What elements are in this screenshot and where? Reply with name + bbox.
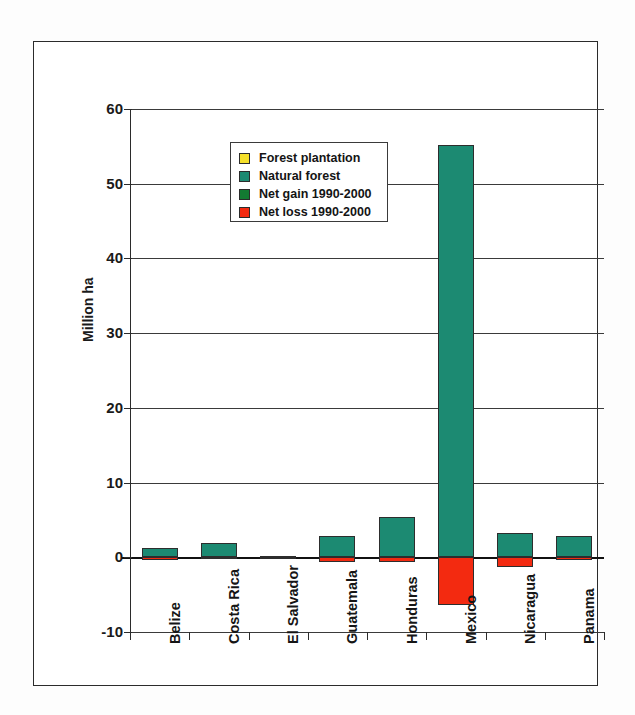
y-tick bbox=[124, 632, 132, 633]
bar-segment-natural-forest bbox=[556, 536, 592, 557]
y-tick bbox=[124, 408, 132, 409]
x-tick-label: Belize bbox=[167, 602, 183, 644]
y-axis bbox=[130, 109, 131, 632]
bar-segment-net-loss bbox=[319, 557, 355, 561]
bar-segment-natural-forest bbox=[379, 517, 415, 557]
bar-segment-net-loss bbox=[201, 557, 237, 559]
x-tick bbox=[249, 632, 250, 640]
y-tick-label: 30 bbox=[83, 324, 123, 341]
x-tick bbox=[189, 632, 190, 640]
figure-canvas: Million ha -100102030405060 BelizeCosta … bbox=[0, 0, 635, 715]
bar-group bbox=[556, 109, 592, 632]
y-tick bbox=[124, 109, 132, 110]
bar-segment-net-loss bbox=[497, 557, 533, 567]
x-tick-label: Guatemala bbox=[344, 570, 360, 644]
bar-segment-net-loss bbox=[260, 557, 296, 559]
x-tick bbox=[604, 632, 605, 640]
x-tick bbox=[367, 632, 368, 640]
x-tick bbox=[426, 632, 427, 640]
y-tick-label: -10 bbox=[83, 623, 123, 640]
bar-segment-net-loss bbox=[379, 557, 415, 561]
bar-segment-natural-forest bbox=[142, 548, 178, 558]
bar-segment-natural-forest bbox=[497, 533, 533, 557]
bar-group bbox=[438, 109, 474, 632]
chart-legend: Forest plantationNatural forestNet gain … bbox=[230, 142, 388, 222]
legend-item: Net gain 1990-2000 bbox=[239, 186, 387, 203]
legend-label: Natural forest bbox=[259, 170, 340, 183]
legend-label: Net loss 1990-2000 bbox=[259, 206, 371, 219]
x-tick-label: Costa Rica bbox=[226, 569, 242, 644]
x-tick bbox=[308, 632, 309, 640]
bar-segment-natural-forest bbox=[438, 145, 474, 557]
legend-swatch-icon bbox=[239, 171, 250, 182]
y-tick-label: 60 bbox=[83, 100, 123, 117]
bar-group bbox=[497, 109, 533, 632]
y-tick bbox=[124, 333, 132, 334]
x-tick-label: Panama bbox=[581, 588, 597, 644]
bar-segment-net-loss bbox=[556, 557, 592, 560]
legend-item: Natural forest bbox=[239, 168, 387, 185]
y-tick-label: 10 bbox=[83, 474, 123, 491]
legend-swatch-icon bbox=[239, 153, 250, 164]
y-tick bbox=[124, 184, 132, 185]
y-tick-label: 0 bbox=[83, 548, 123, 565]
x-tick-label: Honduras bbox=[404, 576, 420, 644]
bar-segment-natural-forest bbox=[201, 543, 237, 557]
legend-item: Forest plantation bbox=[239, 150, 387, 167]
x-tick bbox=[486, 632, 487, 640]
y-tick bbox=[124, 483, 132, 484]
x-tick-label: El Salvador bbox=[285, 565, 301, 644]
y-tick-label: 50 bbox=[83, 175, 123, 192]
x-tick-label: Nicaragua bbox=[522, 574, 538, 644]
legend-item: Net loss 1990-2000 bbox=[239, 204, 387, 221]
legend-label: Net gain 1990-2000 bbox=[259, 188, 372, 201]
chart-frame: Million ha -100102030405060 BelizeCosta … bbox=[33, 41, 598, 686]
y-tick-label: 40 bbox=[83, 249, 123, 266]
bar-segment-natural-forest bbox=[319, 536, 355, 557]
x-tick bbox=[545, 632, 546, 640]
legend-label: Forest plantation bbox=[259, 152, 360, 165]
x-tick-label: Mexico bbox=[463, 595, 479, 644]
bar-segment-net-loss bbox=[142, 557, 178, 559]
y-tick bbox=[124, 557, 132, 558]
x-tick bbox=[130, 632, 131, 640]
legend-swatch-icon bbox=[239, 207, 250, 218]
y-tick-label: 20 bbox=[83, 399, 123, 416]
y-tick bbox=[124, 258, 132, 259]
legend-swatch-icon bbox=[239, 189, 250, 200]
bar-group bbox=[142, 109, 178, 632]
